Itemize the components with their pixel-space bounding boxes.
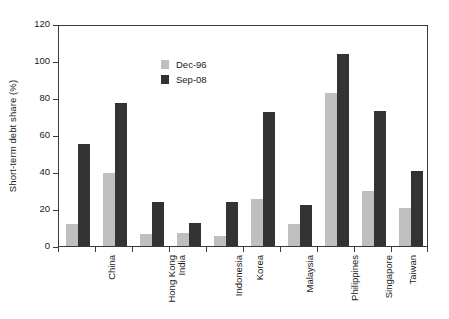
bar <box>251 199 263 246</box>
y-tick-label: 100 <box>34 55 50 66</box>
x-axis-label: India <box>175 255 186 276</box>
bar <box>399 208 411 246</box>
y-tick-label: 0 <box>45 240 50 251</box>
bar <box>300 205 312 246</box>
x-tick-mark <box>280 247 281 252</box>
bar <box>214 236 226 246</box>
bar <box>189 223 201 246</box>
x-axis-label: Malaysia <box>303 255 314 293</box>
plot-area <box>58 25 428 247</box>
legend-item: Sep-08 <box>161 72 207 87</box>
x-tick-mark <box>243 247 244 252</box>
bar <box>374 111 386 246</box>
x-tick-mark <box>206 247 207 252</box>
x-tick-mark <box>317 247 318 252</box>
y-tick-label: 20 <box>39 203 50 214</box>
bar <box>152 202 164 246</box>
bar <box>78 144 90 246</box>
x-tick-mark <box>95 247 96 252</box>
y-axis-tick: 0 <box>0 247 58 248</box>
x-axis-label: Philippines <box>348 255 359 301</box>
bar <box>337 54 349 246</box>
x-axis-label: Singapore <box>383 255 394 298</box>
x-axis-label: China <box>105 255 116 280</box>
y-axis-tick: 80 <box>0 99 58 100</box>
bar <box>177 233 189 246</box>
bar <box>226 202 238 246</box>
x-axis-label: Korea <box>254 255 265 280</box>
x-tick-mark <box>132 247 133 252</box>
bar-chart: Short-term debt share (%) 02040608010012… <box>0 0 449 319</box>
y-axis-tick: 20 <box>0 210 58 211</box>
legend-item: Dec-96 <box>161 57 207 72</box>
bar <box>362 191 374 247</box>
x-axis-label: Taiwan <box>406 255 417 285</box>
legend: Dec-96Sep-08 <box>161 57 207 87</box>
bar <box>140 234 152 246</box>
x-axis-label: Hong Kong <box>165 255 176 303</box>
legend-label: Sep-08 <box>176 74 207 85</box>
bar <box>66 224 78 246</box>
x-axis-label: Indonesia <box>233 255 244 296</box>
y-axis-tick: 120 <box>0 25 58 26</box>
y-axis-tick: 60 <box>0 136 58 137</box>
bar <box>103 173 115 246</box>
y-tick-label: 40 <box>39 166 50 177</box>
bar <box>411 171 423 246</box>
bar <box>263 112 275 246</box>
legend-label: Dec-96 <box>176 59 207 70</box>
x-tick-mark <box>58 247 59 252</box>
y-tick-label: 120 <box>34 18 50 29</box>
y-tick-label: 80 <box>39 92 50 103</box>
x-tick-mark <box>427 247 428 252</box>
bar <box>325 93 337 246</box>
legend-swatch <box>161 75 169 84</box>
x-tick-mark <box>169 247 170 252</box>
x-tick-mark <box>391 247 392 252</box>
bar <box>115 103 127 246</box>
y-axis-tick: 40 <box>0 173 58 174</box>
y-axis-tick: 100 <box>0 62 58 63</box>
y-tick-label: 60 <box>39 129 50 140</box>
legend-swatch <box>161 60 169 69</box>
bar <box>288 224 300 246</box>
x-tick-mark <box>354 247 355 252</box>
